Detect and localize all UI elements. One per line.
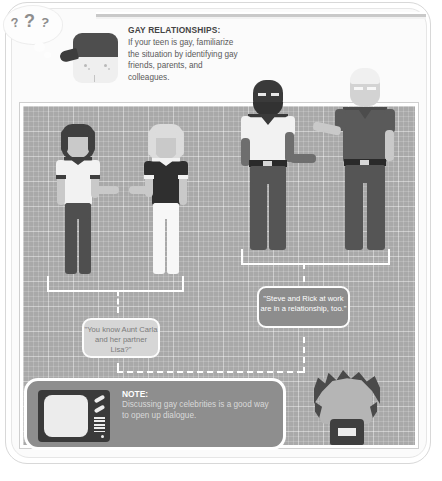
figure-woman-light-hair	[135, 124, 205, 274]
header-divider	[96, 12, 426, 19]
infographic-page: ? ? ? GAY RELATIONSHIPS: If your teen is…	[0, 0, 442, 481]
header-title: GAY RELATIONSHIPS:	[128, 25, 246, 35]
eye-icon	[104, 64, 107, 67]
note-title: NOTE:	[122, 389, 272, 399]
tv-speaker-grille	[94, 417, 105, 432]
figure-man-bearded	[238, 80, 313, 250]
thought-bubble-dot	[34, 42, 45, 52]
eye-icon	[108, 68, 110, 70]
eye-icon	[258, 93, 266, 96]
forearm-reaching	[129, 186, 151, 194]
teen-head-with-cap-icon	[68, 31, 119, 83]
speech-bubble-men-text: "Steve and Rick at work are in a relatio…	[259, 294, 348, 314]
figure-teen	[300, 370, 396, 450]
tv-knob	[94, 395, 106, 404]
speech-bubble-women-text: "You know Aunt Carla and her partner Lis…	[84, 325, 158, 355]
connector-men-to-teen	[303, 337, 305, 373]
connector-women-to-teen	[117, 371, 303, 373]
sleeve-cuff-right	[90, 175, 100, 179]
hip-block	[250, 166, 286, 184]
hip-block	[65, 203, 91, 219]
tv-screen	[44, 395, 88, 437]
hair-side	[176, 130, 184, 156]
speech-bubble-women: "You know Aunt Carla and her partner Lis…	[82, 318, 160, 358]
bracket-women	[47, 276, 184, 292]
hair-side	[88, 130, 95, 152]
shirt-graphic	[338, 428, 356, 436]
television-icon	[38, 390, 110, 442]
connector-women-down	[117, 363, 119, 372]
hair-top	[350, 71, 380, 84]
sleeve-cuff-left	[144, 175, 154, 179]
arm-right	[385, 130, 394, 161]
figure-woman-dark-hair	[47, 124, 117, 274]
thought-bubble-dot	[44, 52, 51, 58]
sleeve-cuff-right	[178, 175, 188, 179]
tv-knob	[94, 405, 106, 414]
baseball-cap	[73, 33, 118, 57]
hip-block	[345, 165, 385, 183]
sleeve-cuff-left	[56, 175, 66, 179]
forearm-reaching	[290, 154, 316, 163]
tv-power-light	[101, 435, 104, 438]
mouth-line	[94, 75, 95, 82]
forearm-reaching	[95, 186, 119, 194]
connector-women-vertical	[117, 290, 119, 313]
eye-icon	[271, 93, 279, 96]
header-text-block: GAY RELATIONSHIPS: If your teen is gay, …	[128, 25, 246, 83]
note-text-block: NOTE: Discussing gay celebrities is a go…	[122, 389, 272, 421]
hair-side	[61, 130, 68, 152]
eye-icon	[84, 64, 87, 67]
header-body: If your teen is gay, familiarize the sit…	[128, 37, 246, 83]
eye-icon	[367, 87, 376, 90]
hair-side	[148, 130, 156, 156]
speech-bubble-men: "Steve and Rick at work are in a relatio…	[257, 286, 350, 328]
figure-man-light-hair	[333, 68, 408, 250]
eye-icon	[88, 68, 90, 70]
bracket-men	[241, 249, 390, 265]
connector-men-vertical	[303, 263, 305, 282]
note-body: Discussing gay celebrities is a good way…	[122, 400, 272, 421]
note-box: NOTE: Discussing gay celebrities is a go…	[24, 378, 286, 450]
thought-bubble: ? ? ?	[4, 6, 62, 48]
eye-icon	[354, 87, 363, 90]
question-mark-icon: ?	[24, 11, 35, 32]
hip-block	[153, 203, 179, 219]
